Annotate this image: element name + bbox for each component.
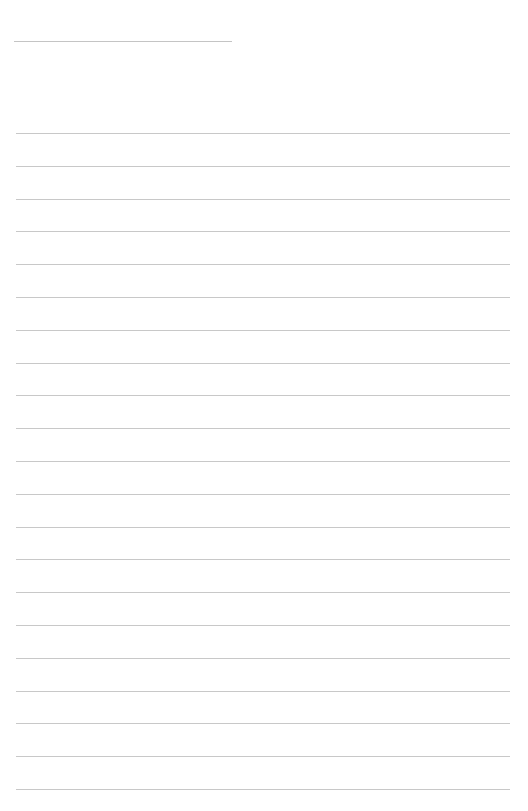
- ruled-line: [16, 231, 510, 232]
- ruled-line: [16, 559, 510, 560]
- ruled-line: [16, 527, 510, 528]
- ruled-line: [16, 658, 510, 659]
- ruled-line: [16, 461, 510, 462]
- ruled-line: [16, 363, 510, 364]
- ruled-line: [16, 297, 510, 298]
- ruled-line: [16, 330, 510, 331]
- ruled-line: [16, 494, 510, 495]
- ruled-line: [16, 691, 510, 692]
- ruled-line: [16, 625, 510, 626]
- ruled-line: [16, 199, 510, 200]
- ruled-line: [16, 756, 510, 757]
- ruled-line: [16, 133, 510, 134]
- ruled-line: [16, 428, 510, 429]
- ruled-line: [16, 264, 510, 265]
- ruled-line: [16, 592, 510, 593]
- ruled-line: [16, 166, 510, 167]
- ruled-line: [16, 723, 510, 724]
- ruled-line: [16, 789, 510, 790]
- lined-page: [0, 0, 528, 811]
- ruled-line: [16, 395, 510, 396]
- title-write-line: [14, 41, 232, 42]
